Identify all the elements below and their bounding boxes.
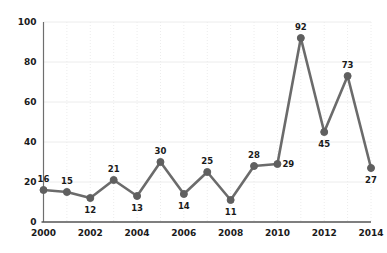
data-point-marker[interactable] — [180, 191, 187, 198]
x-axis-tick-label: 2000 — [24, 229, 64, 238]
data-point-value-label: 16 — [33, 175, 55, 184]
data-point-value-label: 11 — [220, 208, 242, 217]
y-axis-tick-label: 40 — [0, 138, 37, 147]
x-axis-tick-label: 2002 — [70, 229, 110, 238]
data-point-value-label: 30 — [149, 147, 171, 156]
data-point-value-label: 27 — [360, 176, 382, 185]
x-axis-tick-label: 2008 — [211, 229, 251, 238]
data-point-value-label: 28 — [243, 151, 265, 160]
x-axis-tick-label: 2004 — [117, 229, 157, 238]
data-point-value-label: 92 — [290, 23, 312, 32]
data-point-value-label: 13 — [126, 204, 148, 213]
data-point-marker[interactable] — [368, 165, 375, 172]
data-point-value-label: 21 — [103, 165, 125, 174]
x-axis-tick-label: 2012 — [304, 229, 344, 238]
data-point-marker[interactable] — [227, 197, 234, 204]
y-axis-tick-label: 100 — [0, 18, 37, 27]
x-axis-tick-label: 2006 — [164, 229, 204, 238]
data-point-value-label: 45 — [313, 140, 335, 149]
data-point-marker[interactable] — [297, 35, 304, 42]
data-point-marker[interactable] — [344, 73, 351, 80]
data-point-marker[interactable] — [251, 163, 258, 170]
data-point-marker[interactable] — [321, 129, 328, 136]
data-point-marker[interactable] — [204, 169, 211, 176]
data-point-value-label: 25 — [196, 157, 218, 166]
x-axis-tick-label: 2010 — [257, 229, 297, 238]
data-point-value-label: 29 — [282, 160, 304, 169]
data-point-marker[interactable] — [63, 189, 70, 196]
data-point-marker[interactable] — [157, 159, 164, 166]
y-axis-tick-label: 80 — [0, 58, 37, 67]
data-point-marker[interactable] — [110, 177, 117, 184]
data-point-value-label: 73 — [337, 61, 359, 70]
line-chart: 020406080100 200020022004200620082010201… — [0, 0, 387, 253]
x-axis-tick-label: 2014 — [351, 229, 387, 238]
data-point-marker[interactable] — [87, 195, 94, 202]
data-point-value-label: 12 — [79, 206, 101, 215]
data-point-marker[interactable] — [40, 187, 47, 194]
data-point-value-label: 14 — [173, 202, 195, 211]
data-point-value-label: 15 — [56, 177, 78, 186]
y-axis-tick-label: 0 — [0, 218, 37, 227]
chart-canvas — [0, 0, 387, 253]
data-point-marker[interactable] — [274, 161, 281, 168]
y-axis-tick-label: 60 — [0, 98, 37, 107]
y-axis-tick-label: 20 — [0, 178, 37, 187]
data-point-marker[interactable] — [134, 193, 141, 200]
